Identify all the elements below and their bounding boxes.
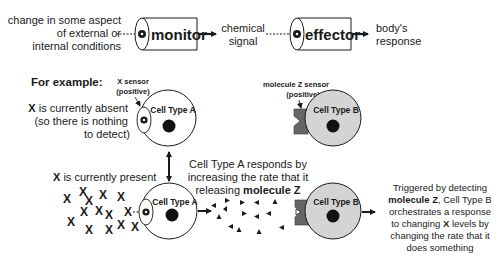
x-molecule: X bbox=[124, 205, 132, 219]
x-molecule: X bbox=[117, 190, 125, 204]
nucleus-icon bbox=[166, 209, 179, 222]
x-molecule: X bbox=[131, 220, 139, 234]
cell-b-response-line-5: changing the rate that it bbox=[390, 230, 490, 241]
z-molecule-icon bbox=[254, 200, 259, 205]
effector-label: effector bbox=[305, 26, 360, 43]
z-molecule-icon bbox=[217, 214, 222, 219]
response-line-1: body's bbox=[376, 22, 408, 34]
z-molecule-icon bbox=[257, 229, 262, 234]
x-molecule: X bbox=[105, 223, 113, 237]
x-molecule: X bbox=[117, 218, 125, 232]
signal-text: chemical signal bbox=[221, 22, 264, 47]
nucleus-icon bbox=[327, 120, 340, 133]
cell-b-response-text: Triggered by detecting molecule Z, Cell … bbox=[388, 182, 491, 253]
cell-type-b-bottom: Cell Type B bbox=[295, 183, 361, 239]
stimulus-line-1: change in some aspect bbox=[8, 14, 121, 26]
z-molecule-icon bbox=[254, 214, 259, 219]
homeostasis-diagram: change in some aspect of external or int… bbox=[0, 0, 503, 259]
x-molecules: X X X X X X X X X X X X X X bbox=[63, 185, 139, 237]
cell-type-a-bottom: Cell Type A bbox=[139, 183, 198, 239]
z-molecule-icon bbox=[225, 198, 230, 203]
z-sensor-pointer bbox=[299, 100, 301, 108]
cell-a-response-line-3: releasing molecule Z bbox=[195, 184, 300, 196]
cell-a-response-text: Cell Type A responds by increasing the r… bbox=[188, 158, 308, 196]
cell-b-response-line-2: molecule Z, Cell Type B bbox=[388, 194, 491, 205]
z-molecule-icon bbox=[266, 211, 271, 216]
x-molecule: X bbox=[80, 205, 88, 219]
z-molecule-icon bbox=[211, 203, 216, 208]
cell-a-label: Cell Type A bbox=[150, 105, 195, 115]
absent-line-3: to detect) bbox=[84, 128, 130, 140]
cell-b-response-line-3: orchestrates a response bbox=[389, 206, 491, 217]
absent-line-2: (so there is nothing bbox=[34, 115, 128, 127]
cell-a-response-line-1: Cell Type A responds by bbox=[189, 158, 307, 170]
x-sensor-label-1: X sensor bbox=[117, 77, 149, 86]
stimulus-line-3: internal conditions bbox=[32, 40, 121, 52]
z-molecule-icon bbox=[228, 224, 233, 229]
nucleus-icon bbox=[327, 210, 340, 223]
cell-b-label: Cell Type B bbox=[313, 105, 359, 115]
x-molecule: X bbox=[67, 215, 75, 229]
molecule-z-particles bbox=[211, 198, 284, 234]
monitor-box: monitor bbox=[135, 18, 207, 50]
example-heading: For example: bbox=[31, 76, 103, 88]
z-molecule-icon bbox=[237, 227, 242, 232]
x-molecule: X bbox=[95, 204, 103, 218]
absent-line-1: X is currently absent bbox=[28, 102, 128, 114]
x-molecule: X bbox=[85, 223, 93, 237]
z-molecule-icon bbox=[279, 225, 284, 230]
signal-line-2: signal bbox=[229, 35, 258, 47]
cell-b-label: Cell Type B bbox=[313, 197, 359, 207]
cell-a-response-line-2: increasing the rate that it bbox=[188, 171, 308, 183]
x-molecule: X bbox=[105, 208, 113, 222]
cell-b-response-line-1: Triggered by detecting bbox=[393, 182, 487, 193]
x-sensor-label-2: (positive) bbox=[116, 87, 150, 96]
z-molecule-icon bbox=[273, 199, 278, 204]
cell-type-a-top: Cell Type A bbox=[137, 90, 196, 146]
response-line-2: response bbox=[376, 35, 421, 47]
cell-a-label: Cell Type A bbox=[152, 197, 197, 207]
x-present-text: X is currently present bbox=[53, 171, 156, 183]
stimulus-text: change in some aspect of external or int… bbox=[8, 14, 122, 52]
effector-box: effector bbox=[290, 18, 360, 50]
x-absent-text: X is currently absent (so there is nothi… bbox=[28, 102, 130, 140]
response-text: body's response bbox=[376, 22, 421, 47]
z-molecule-icon bbox=[240, 200, 245, 205]
x-molecule: X bbox=[63, 192, 71, 206]
z-molecule-icon bbox=[242, 211, 247, 216]
signal-line-1: chemical bbox=[221, 22, 264, 34]
z-molecule-icon bbox=[223, 206, 227, 212]
x-molecule: X bbox=[99, 188, 107, 202]
stimulus-line-2: of external or bbox=[57, 27, 122, 39]
z-sensor-label-1: molecule Z sensor bbox=[263, 80, 329, 89]
cell-b-response-line-4: to changing X levels by bbox=[391, 218, 489, 229]
cell-b-response-line-6: does something bbox=[406, 242, 473, 253]
x-sensor-pointer bbox=[135, 97, 140, 106]
nucleus-icon bbox=[163, 120, 176, 133]
